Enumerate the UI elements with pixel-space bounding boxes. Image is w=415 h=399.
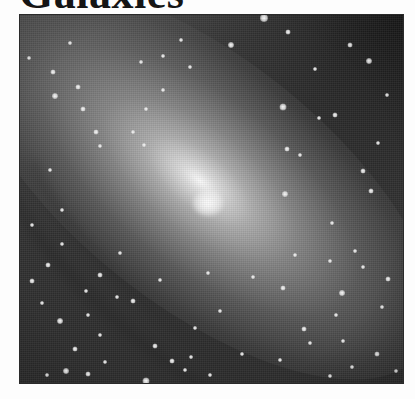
star [63,368,69,374]
star [228,42,234,48]
star [293,253,297,257]
star [30,223,34,227]
galaxy-photo [19,14,404,384]
star [131,299,136,304]
star [369,189,374,194]
star [170,359,175,364]
star [298,153,302,157]
star [189,355,193,359]
star [348,43,353,48]
star [339,290,345,296]
star [251,275,255,279]
star [286,30,291,35]
galaxy-core [193,190,223,216]
star [114,383,118,384]
star [302,327,307,332]
star [193,326,197,330]
star [161,54,165,58]
star [103,360,107,364]
star [386,277,391,282]
star [139,60,143,64]
star [281,286,286,291]
star [27,56,31,60]
star [86,313,90,317]
star [260,14,268,22]
star [45,373,49,377]
star [98,144,102,148]
star [394,369,398,373]
star [40,301,44,305]
star [341,339,345,343]
star [115,295,119,299]
star [161,88,165,92]
star [143,378,150,385]
star [361,169,366,174]
star [84,289,88,293]
star [46,263,51,268]
star [334,313,338,317]
page-heading: Galaxies [19,0,184,14]
star [376,141,380,145]
star [285,147,290,152]
star [81,107,86,112]
star [98,333,102,337]
star [280,104,287,111]
star [52,93,58,99]
star [73,347,78,352]
star [51,70,56,75]
star [188,65,192,69]
star [366,58,372,64]
star [179,38,183,42]
star [278,358,282,362]
star [98,273,103,278]
star [218,309,222,313]
star [153,344,158,349]
star [57,318,63,324]
star [30,279,35,284]
star [361,265,365,269]
star [353,249,357,253]
star [206,271,210,275]
star [144,107,148,111]
star [350,365,354,369]
star [131,130,135,134]
star [94,130,99,135]
star [60,208,64,212]
star [183,368,187,372]
star [60,242,64,246]
star [68,41,72,45]
star [375,352,380,357]
star [48,168,52,172]
star [317,116,321,120]
star [313,67,317,71]
star [385,93,389,97]
star [208,373,212,377]
star [380,305,384,309]
star [328,259,332,263]
star [142,143,146,147]
star [86,372,91,377]
star [240,352,244,356]
star [330,221,334,225]
star [308,341,312,345]
star [118,251,122,255]
star [328,374,332,378]
star [333,113,338,118]
star [76,85,81,90]
star [158,278,162,282]
star [282,191,288,197]
